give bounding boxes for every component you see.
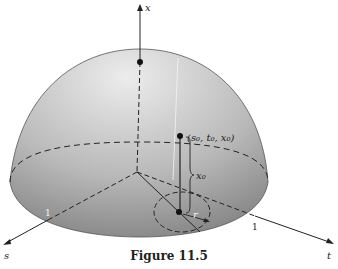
t-axis-solid [255,216,332,243]
x0-label: x₀ [196,170,206,181]
s-axis-solid [6,220,48,243]
s-tick-label: 1 [45,208,51,218]
point-s0-t0-x0 [177,133,183,139]
t-axis-arrowhead [326,238,334,244]
hemisphere-diagram: x s t 1 1 (s₀, t₀, x₀) x₀ r [0,0,338,269]
base-point [176,209,182,215]
s-axis-arrowhead [3,239,11,245]
figure-caption: Figure 11.5 [0,249,338,263]
t-tick-label: 1 [252,222,258,232]
point-coordinates-label: (s₀, t₀, x₀) [187,132,234,143]
north-pole-point [137,59,143,65]
x-axis-arrowhead [137,4,143,11]
x-axis-label: x [145,2,151,13]
